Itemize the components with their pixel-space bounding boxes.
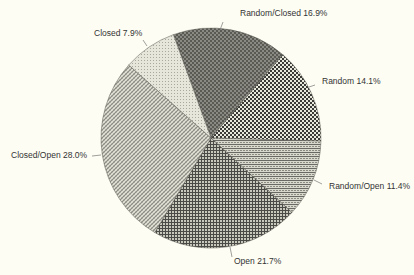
label-random-closed: Random/Closed 16.9% xyxy=(240,8,327,18)
label-random: Random 14.1% xyxy=(322,76,381,86)
label-closed-open: Closed/Open 28.0% xyxy=(11,150,87,160)
label-random-open: Random/Open 11.4% xyxy=(329,181,410,191)
pie-slices xyxy=(101,28,321,248)
label-open: Open 21.7% xyxy=(234,256,281,266)
pie-chart xyxy=(0,0,414,275)
label-closed: Closed 7.9% xyxy=(94,28,142,38)
